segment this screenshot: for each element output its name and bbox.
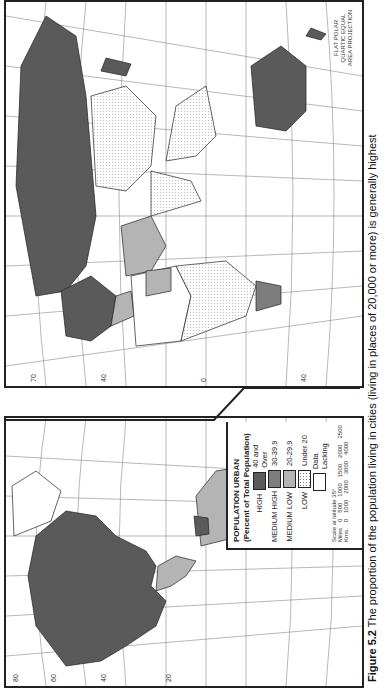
lat-tick: 20 — [165, 674, 172, 682]
new-zealand — [306, 28, 326, 40]
china — [91, 86, 156, 191]
lat-tick: 60 — [50, 674, 57, 682]
rotated-map-page: 80 60 40 20 POPULATION URBAN (Percent of… — [0, 0, 391, 688]
projection-label: FLAT POLAR QUARTIC EQUAL AREA PROJECTION — [333, 8, 354, 68]
india — [151, 171, 201, 216]
panel-divider — [4, 382, 360, 426]
legend-item-medium-low: MEDIUM LOW 20-29.9 — [282, 428, 297, 542]
caption-text: The proportion of the population living … — [366, 134, 378, 627]
southeast-asia — [166, 86, 216, 161]
middle-east — [121, 216, 166, 276]
lat-tick: 40 — [100, 374, 107, 382]
lat-tick: 40 — [100, 674, 107, 682]
lat-tick: 0 — [200, 378, 207, 382]
egypt — [146, 268, 171, 296]
legend-item-data-lacking: Data Lacking — [312, 428, 327, 542]
swatch-low — [298, 470, 311, 488]
legend-item-medium-high: MEDIUM HIGH 30-39.9 — [267, 428, 282, 542]
eastern-hemisphere-map: 70 40 0 40 — [6, 2, 362, 386]
eastern-hemisphere-map-panel: 70 40 0 40 FLAT POLAR QUARTIC EQUAL AREA… — [4, 0, 364, 388]
swatch-medium-low — [283, 470, 296, 488]
map-scale: Scale at latitude 35° Miles 0 500 1000 1… — [331, 428, 349, 542]
lat-tick: 80 — [12, 674, 19, 682]
japan — [101, 58, 131, 76]
north-america — [28, 511, 166, 666]
swatch-high — [253, 472, 266, 490]
legend-title: POPULATION URBAN — [232, 428, 242, 542]
figure-number: Figure 5.2 — [366, 630, 378, 682]
americas-map-panel: 80 60 40 20 POPULATION URBAN (Percent of… — [4, 416, 364, 688]
ussr — [16, 16, 96, 296]
legend: POPULATION URBAN (Percent of Total Popul… — [226, 422, 364, 550]
mexico — [156, 556, 196, 591]
south-africa — [256, 281, 281, 311]
figure-caption: Figure 5.2 The proportion of the populat… — [366, 134, 378, 682]
legend-item-high: HIGH 40 and Over — [252, 428, 267, 542]
venezuela — [194, 516, 209, 536]
swatch-medium-high — [268, 470, 281, 488]
lat-tick: 40 — [300, 374, 307, 382]
swatch-data-lacking — [313, 473, 326, 491]
scale-kms: Kms. 0 1000 2000 3000 4000 — [343, 428, 349, 542]
lat-tick: 70 — [30, 374, 37, 382]
